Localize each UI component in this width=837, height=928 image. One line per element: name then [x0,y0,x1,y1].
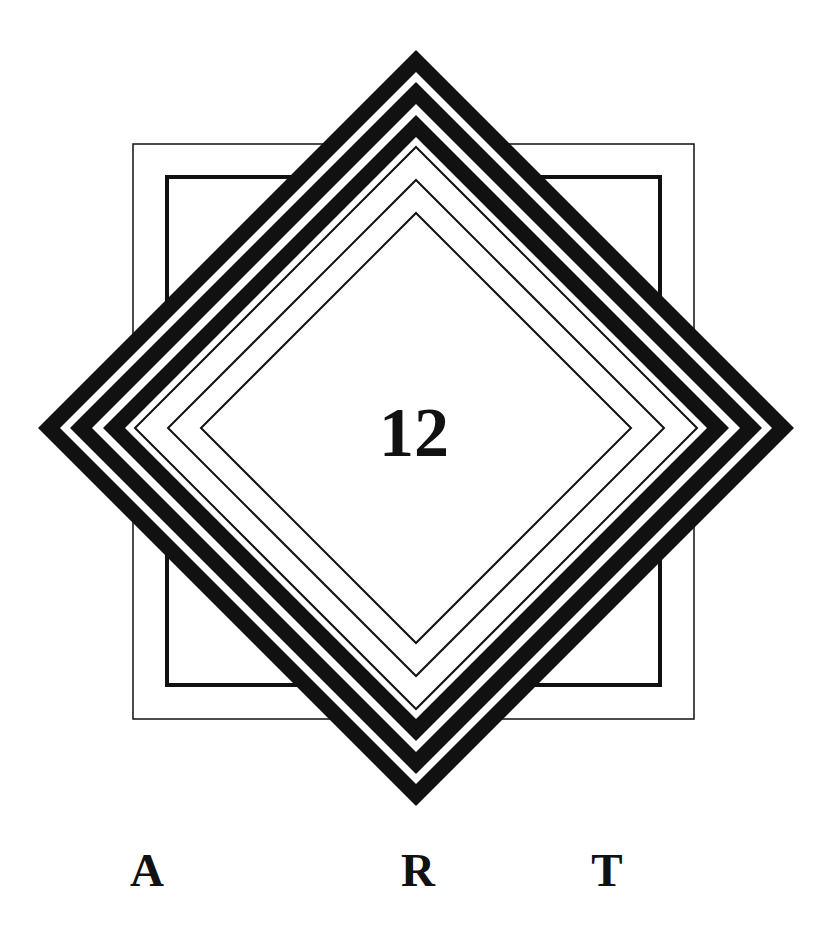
letter-t: T [591,844,622,896]
letter-r: R [401,844,436,896]
center-number: 12 [379,394,449,471]
art-12-poster: 12 A R T [0,0,837,928]
letter-a: A [130,844,164,896]
